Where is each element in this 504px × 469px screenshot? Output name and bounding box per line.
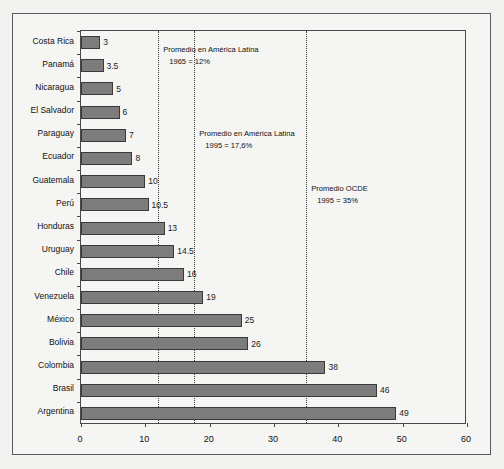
bar-row: 14.5 — [81, 241, 194, 261]
category-label: Nicaragua — [0, 83, 74, 92]
y-axis-tick — [77, 402, 81, 403]
plot-area: 33.556781010.51314.516192526384649 — [80, 30, 466, 424]
reference-annotation: Promedio en América Latina1965 = 12% — [163, 44, 258, 68]
y-axis-tick — [77, 193, 81, 194]
bar-value-label: 7 — [129, 131, 134, 140]
bar-row: 38 — [81, 357, 338, 377]
bar — [81, 268, 184, 281]
bar-value-label: 13 — [168, 224, 177, 233]
bar-value-label: 25 — [245, 316, 254, 325]
category-label: Colombia — [0, 361, 74, 370]
bar — [81, 198, 149, 211]
bar-row: 49 — [81, 403, 409, 423]
category-label: Chile — [0, 268, 74, 277]
y-axis-tick — [77, 147, 81, 148]
bar-value-label: 6 — [123, 108, 128, 117]
bar-value-label: 19 — [206, 293, 215, 302]
bar — [81, 106, 120, 119]
x-axis-tick — [210, 423, 211, 427]
bar-value-label: 16 — [187, 270, 196, 279]
y-axis-tick — [77, 101, 81, 102]
reference-annotation: Promedio en América Latina1995 = 17,6% — [199, 128, 294, 152]
x-axis-tick — [338, 423, 339, 427]
bar — [81, 361, 325, 374]
category-label: Perú — [0, 199, 74, 208]
category-label: Guatemala — [0, 176, 74, 185]
bar-value-label: 26 — [251, 340, 260, 349]
bar-value-label: 5 — [116, 85, 121, 94]
chart-page: 33.556781010.51314.516192526384649 Costa… — [0, 0, 504, 469]
bar-row: 3 — [81, 33, 108, 53]
bar-row: 3.5 — [81, 56, 118, 76]
annotation-line-2: 1965 = 12% — [163, 56, 258, 68]
x-axis-tick — [145, 423, 146, 427]
annotation-line-2: 1995 = 17,6% — [199, 140, 294, 152]
x-axis-tick-label: 30 — [258, 435, 288, 444]
bar-row: 6 — [81, 102, 127, 122]
bar — [81, 129, 126, 142]
bar-value-label: 3.5 — [107, 62, 119, 71]
x-axis-tick — [403, 423, 404, 427]
bar — [81, 82, 113, 95]
bar-row: 8 — [81, 148, 140, 168]
bar-value-label: 14.5 — [177, 247, 194, 256]
y-axis-tick — [77, 124, 81, 125]
bar — [81, 291, 203, 304]
bar — [81, 222, 165, 235]
bar — [81, 407, 396, 420]
annotation-line-1: Promedio en América Latina — [163, 45, 258, 54]
bar-value-label: 38 — [328, 363, 337, 372]
bar — [81, 175, 145, 188]
category-label: Venezuela — [0, 292, 74, 301]
bar-row: 10 — [81, 172, 158, 192]
x-axis-tick-label: 20 — [194, 435, 224, 444]
category-label: Paraguay — [0, 129, 74, 138]
y-axis-tick — [77, 355, 81, 356]
category-label: Costa Rica — [0, 37, 74, 46]
bar — [81, 337, 248, 350]
bar-row: 46 — [81, 380, 389, 400]
y-axis-tick — [77, 263, 81, 264]
y-axis-tick — [77, 240, 81, 241]
annotation-line-1: Promedio en América Latina — [199, 129, 294, 138]
x-axis-tick-label: 50 — [387, 435, 417, 444]
category-label: Panamá — [0, 60, 74, 69]
x-axis-tick-label: 40 — [322, 435, 352, 444]
y-axis-tick — [77, 77, 81, 78]
bar-value-label: 49 — [399, 409, 408, 418]
category-label: Ecuador — [0, 152, 74, 161]
y-axis-tick — [77, 332, 81, 333]
bar-row: 7 — [81, 125, 134, 145]
y-axis-tick — [77, 54, 81, 55]
bar-row: 16 — [81, 264, 196, 284]
annotation-line-1: Promedio OCDE — [311, 184, 368, 193]
bar — [81, 245, 174, 258]
bar-value-label: 3 — [103, 38, 108, 47]
y-axis-tick — [77, 309, 81, 310]
bar — [81, 59, 104, 72]
bar — [81, 384, 377, 397]
category-label: Uruguay — [0, 245, 74, 254]
y-axis-tick — [77, 286, 81, 287]
x-axis-tick — [274, 423, 275, 427]
bar-row: 10.5 — [81, 195, 168, 215]
x-axis-tick — [81, 423, 82, 427]
y-axis-tick — [77, 31, 81, 32]
bar-row: 13 — [81, 218, 177, 238]
category-label: Argentina — [0, 407, 74, 416]
x-axis-tick-label: 0 — [65, 435, 95, 444]
bar — [81, 314, 242, 327]
x-axis-tick-label: 60 — [451, 435, 481, 444]
y-axis-tick — [77, 216, 81, 217]
annotation-line-2: 1995 = 35% — [311, 195, 368, 207]
bar-value-label: 10.5 — [152, 201, 169, 210]
bar-value-label: 46 — [380, 386, 389, 395]
bar — [81, 152, 132, 165]
bar-value-label: 10 — [148, 177, 157, 186]
category-label: Honduras — [0, 222, 74, 231]
category-label: Bolivia — [0, 338, 74, 347]
bar-row: 5 — [81, 79, 121, 99]
category-label: Brasil — [0, 384, 74, 393]
category-label: El Salvador — [0, 106, 74, 115]
bar-row: 25 — [81, 311, 254, 331]
